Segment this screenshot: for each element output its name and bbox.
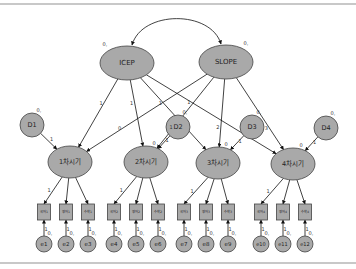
- disturbance-path-label: 1: [50, 136, 53, 142]
- icep-loading-arrow: [78, 79, 117, 147]
- indicator-loading-arrow: [221, 179, 228, 204]
- slope-loading-arrow: [219, 79, 224, 147]
- indicator-loading-arrow: [206, 179, 214, 204]
- error-variance-label: 0,: [309, 230, 314, 236]
- indicator-label: 국어3: [180, 209, 188, 214]
- d2-label: D2: [173, 123, 182, 131]
- slope-loading-arrow: [87, 74, 208, 151]
- slope-variance-label: 0,: [244, 40, 249, 46]
- slope-label: SLOPE: [215, 58, 237, 66]
- error-variance-label: 0,: [162, 230, 167, 236]
- error-variance-label: 0,: [118, 230, 123, 236]
- t2-intercept-label: 0: [152, 140, 155, 146]
- d4-variance-label: 0,: [331, 110, 336, 116]
- indicator-label: 수학2: [154, 209, 162, 214]
- icep-loading-label: 1: [187, 99, 190, 105]
- t4-label: 4차시기: [282, 159, 304, 168]
- icep-loading-label: 1: [130, 100, 133, 106]
- indicator-label: 국어4: [257, 209, 265, 214]
- indicator-loading-arrow: [114, 177, 137, 204]
- d3-variance-label: 0,: [257, 109, 262, 115]
- indicator-loading-arrow: [66, 178, 69, 204]
- slope-loading-label: 3: [265, 125, 268, 131]
- covariance-arc: [132, 19, 221, 45]
- error-label: e4: [111, 241, 118, 247]
- d4-label: D4: [321, 124, 330, 132]
- t3-intercept-label: 0: [224, 141, 227, 147]
- disturbance-arrow: [41, 133, 57, 149]
- error-variance-label: 0,: [70, 230, 75, 236]
- error-variance-label: 0,: [265, 230, 270, 236]
- d1-variance-label: 0,: [37, 107, 42, 113]
- slope-loading-label: 2: [216, 124, 219, 130]
- error-variance-label: 0,: [232, 230, 237, 236]
- d2-variance-label: 0,: [183, 109, 188, 115]
- indicator-loading-arrow: [297, 180, 305, 204]
- indicator-label: 국어1: [40, 209, 48, 214]
- error-variance-label: 0,: [92, 230, 97, 236]
- error-label: e2: [63, 241, 70, 247]
- indicator-label: 영어3: [202, 209, 210, 214]
- error-variance-label: 0,: [287, 230, 292, 236]
- indicator-loading-label: 1: [190, 188, 193, 194]
- error-label: e8: [203, 241, 210, 247]
- icep-label: ICEP: [119, 59, 135, 67]
- d1-label: D1: [27, 121, 36, 129]
- error-variance-label: 0,: [188, 230, 193, 236]
- sem-path-diagram: ICEPSLOPED1D2D3D41차시기2차시기3차시기4차시기국어1영어1수…: [0, 0, 356, 269]
- icep-variance-label: 0,: [103, 41, 108, 47]
- disturbance-path-label: 1: [239, 138, 242, 144]
- indicator-loading-arrow: [283, 180, 290, 204]
- error-label: e10: [256, 241, 265, 247]
- icep-loading-arrow: [130, 80, 143, 146]
- indicator-loading-arrow: [261, 178, 283, 204]
- indicator-label: 수학1: [84, 209, 92, 214]
- indicator-label: 수학3: [224, 209, 232, 214]
- error-label: e3: [85, 241, 92, 247]
- error-variance-label: 0,: [48, 230, 53, 236]
- indicator-loading-label: 1: [120, 187, 123, 193]
- error-label: e1: [41, 241, 48, 247]
- indicator-label: 영어4: [279, 209, 287, 214]
- t4-intercept-label: 0: [299, 142, 302, 148]
- d3-label: D3: [247, 123, 256, 131]
- error-variance-label: 0,: [140, 230, 145, 236]
- error-label: e12: [300, 241, 309, 247]
- t1-label: 1차시기: [59, 157, 81, 166]
- t2-label: 2차시기: [135, 157, 157, 166]
- error-label: e7: [181, 241, 188, 247]
- indicator-loading-label: 1: [48, 187, 51, 193]
- error-variance-label: 0,: [210, 230, 215, 236]
- icep-loading-label: 1: [99, 100, 102, 106]
- error-label: e5: [133, 241, 140, 247]
- error-label: e11: [278, 241, 287, 247]
- indicator-loading-arrow: [76, 177, 88, 204]
- indicator-label: 영어1: [62, 209, 70, 214]
- slope-loading-label: 1: [170, 124, 173, 130]
- icep-loading-arrow: [140, 78, 205, 150]
- diagram-nodes: ICEPSLOPED1D2D3D41차시기2차시기3차시기4차시기국어1영어1수…: [20, 45, 338, 252]
- indicator-loading-label: 1: [267, 188, 270, 194]
- disturbance-path-label: 1: [313, 139, 316, 145]
- icep-loading-label: 1: [159, 100, 162, 106]
- indicator-loading-arrow: [184, 177, 208, 204]
- indicator-label: 수학4: [301, 209, 309, 214]
- indicator-label: 국어2: [110, 209, 118, 214]
- indicator-loading-arrow: [136, 178, 143, 204]
- indicator-label: 영어2: [132, 209, 140, 214]
- error-label: e6: [155, 241, 162, 247]
- error-label: e9: [225, 241, 232, 247]
- t3-label: 3차시기: [207, 158, 229, 167]
- slope-loading-label: 0: [118, 125, 121, 131]
- indicator-loading-arrow: [150, 178, 158, 204]
- disturbance-arrow: [230, 136, 243, 150]
- disturbance-path-label: 1: [165, 137, 168, 143]
